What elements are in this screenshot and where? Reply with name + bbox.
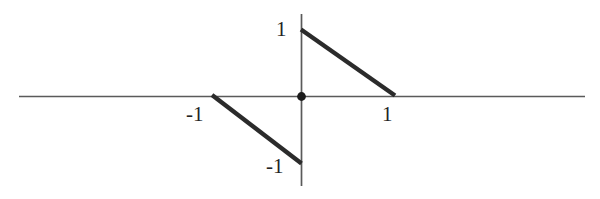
x-axis-label-negative-one: -1 [186, 104, 204, 125]
x-axis-label-positive-one: 1 [382, 104, 393, 125]
function-segment-left [212, 95, 302, 164]
function-segment-right [301, 30, 395, 96]
origin-point-marker [297, 92, 306, 101]
y-axis-label-negative-one: -1 [266, 156, 284, 177]
plot-canvas [0, 0, 600, 199]
y-axis-label-positive-one: 1 [276, 19, 287, 40]
math-plot-figure: 1 1 -1 -1 [0, 0, 600, 199]
